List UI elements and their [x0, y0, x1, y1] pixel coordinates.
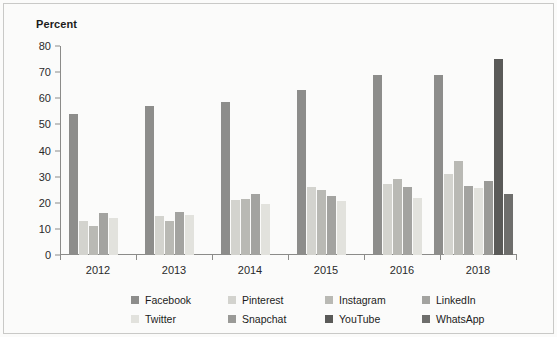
bar-facebook-2018 — [434, 75, 444, 255]
legend-swatch-icon — [131, 315, 139, 323]
bar-linkedin-2012 — [99, 213, 109, 255]
bar-linkedin-2013 — [175, 212, 185, 255]
bar-instagram-2015 — [317, 190, 327, 255]
chart-legend: FacebookPinterestInstagramLinkedInTwitte… — [131, 290, 521, 328]
legend-label: Facebook — [145, 294, 191, 306]
legend-label: Snapchat — [242, 313, 286, 325]
x-axis-tick-label-2015: 2015 — [314, 264, 338, 276]
legend-item-linkedin[interactable]: LinkedIn — [422, 294, 519, 306]
x-axis-tick-label-2013: 2013 — [162, 264, 186, 276]
bar-snapchat-2018 — [484, 181, 494, 255]
legend-label: LinkedIn — [436, 294, 476, 306]
bar-group — [373, 46, 423, 255]
legend-swatch-icon — [325, 296, 333, 304]
legend-label: Instagram — [339, 294, 386, 306]
x-axis-tick-mark — [136, 255, 137, 260]
bar-group — [221, 46, 271, 255]
y-axis-tick-mark — [55, 228, 60, 229]
legend-item-snapchat[interactable]: Snapchat — [228, 313, 325, 325]
bar-pinterest-2012 — [79, 221, 89, 255]
bar-youtube-2018 — [494, 59, 504, 255]
x-axis-tick-mark — [60, 255, 61, 260]
x-axis-tick-mark — [440, 255, 441, 260]
legend-swatch-icon — [325, 315, 333, 323]
y-axis-tick-mark — [55, 72, 60, 73]
bar-pinterest-2016 — [383, 184, 393, 255]
legend-swatch-icon — [131, 296, 139, 304]
legend-item-pinterest[interactable]: Pinterest — [228, 294, 325, 306]
x-axis-tick-label-2018: 2018 — [466, 264, 490, 276]
x-axis-tick-mark — [364, 255, 365, 260]
y-axis-tick-mark — [55, 98, 60, 99]
x-axis-tick-label-2014: 2014 — [238, 264, 262, 276]
x-axis-tick-label-2016: 2016 — [390, 264, 414, 276]
bar-instagram-2012 — [89, 226, 99, 255]
legend-label: Pinterest — [242, 294, 283, 306]
bar-group — [69, 46, 119, 255]
x-axis-tick-mark — [516, 255, 517, 260]
bar-facebook-2013 — [145, 106, 155, 255]
bar-group — [145, 46, 195, 255]
bar-pinterest-2015 — [307, 187, 317, 255]
y-axis-tick-mark — [55, 176, 60, 177]
bar-instagram-2018 — [454, 161, 464, 255]
bar-instagram-2014 — [241, 199, 251, 255]
plot-area: 0102030405060708020122013201420152016201… — [60, 46, 516, 255]
bar-facebook-2015 — [297, 90, 307, 255]
bar-instagram-2013 — [165, 221, 175, 255]
bar-pinterest-2018 — [444, 174, 454, 255]
bar-twitter-2016 — [413, 198, 423, 255]
legend-swatch-icon — [228, 315, 236, 323]
x-axis-tick-mark — [212, 255, 213, 260]
bar-linkedin-2015 — [327, 196, 337, 255]
bar-twitter-2018 — [474, 188, 484, 255]
x-axis-tick-label-2012: 2012 — [86, 264, 110, 276]
legend-item-youtube[interactable]: YouTube — [325, 313, 422, 325]
bar-facebook-2016 — [373, 75, 383, 255]
bar-facebook-2012 — [69, 114, 79, 255]
bar-instagram-2016 — [393, 179, 403, 255]
bar-facebook-2014 — [221, 102, 231, 255]
legend-item-instagram[interactable]: Instagram — [325, 294, 422, 306]
y-axis-label: Percent — [36, 18, 77, 30]
y-axis-tick-mark — [55, 46, 60, 47]
bar-whatsapp-2018 — [504, 194, 514, 255]
legend-item-twitter[interactable]: Twitter — [131, 313, 228, 325]
bar-pinterest-2014 — [231, 200, 241, 255]
bar-pinterest-2013 — [155, 216, 165, 255]
legend-swatch-icon — [422, 315, 430, 323]
bar-twitter-2015 — [337, 201, 347, 255]
y-axis-tick-mark — [55, 150, 60, 151]
bar-linkedin-2018 — [464, 186, 474, 255]
bar-linkedin-2016 — [403, 187, 413, 255]
legend-label: Twitter — [145, 313, 176, 325]
bar-twitter-2014 — [261, 204, 271, 255]
bar-linkedin-2014 — [251, 194, 261, 255]
bar-group — [297, 46, 347, 255]
bar-twitter-2013 — [185, 215, 195, 255]
legend-item-whatsapp[interactable]: WhatsApp — [422, 313, 519, 325]
legend-label: WhatsApp — [436, 313, 484, 325]
x-axis-tick-mark — [288, 255, 289, 260]
chart-figure: Percent 01020304050607080201220132014201… — [0, 0, 557, 337]
legend-label: YouTube — [339, 313, 380, 325]
y-axis-tick-mark — [55, 202, 60, 203]
bar-twitter-2012 — [109, 218, 119, 255]
y-axis-tick-mark — [55, 124, 60, 125]
bar-group — [434, 46, 514, 255]
legend-swatch-icon — [228, 296, 236, 304]
legend-swatch-icon — [422, 296, 430, 304]
legend-item-facebook[interactable]: Facebook — [131, 294, 228, 306]
